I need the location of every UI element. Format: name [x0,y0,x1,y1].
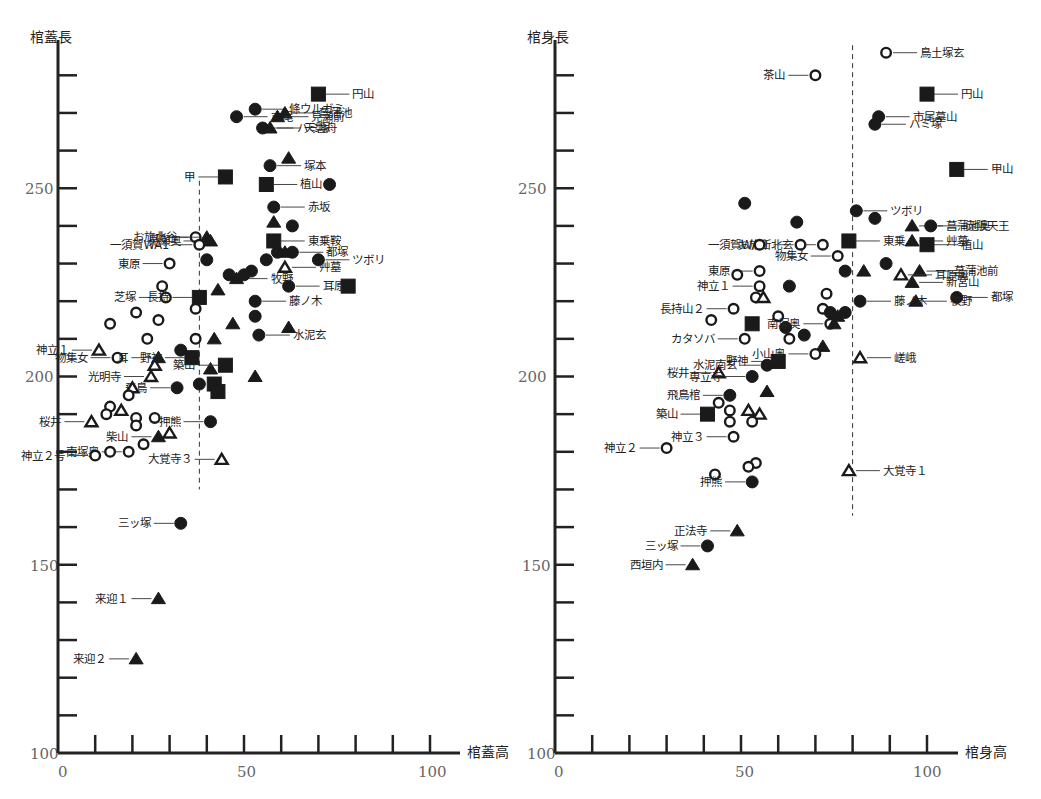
open-circle-marker [105,447,115,457]
left-y-tick-150: 150 [30,557,59,575]
filled-triangle-marker [760,385,774,397]
data-point: 神立２ [604,441,672,455]
open-circle-marker [729,304,739,314]
data-point [286,220,298,232]
data-point [115,405,127,415]
point-label: ツボリ [352,253,385,267]
left-y-tick-200: 200 [25,368,54,386]
point-label: 神立３ [671,430,704,444]
data-point: 東乗 [842,234,906,248]
point-label: 植山 [961,238,983,252]
point-label: 艸墓 [319,260,342,274]
data-point [739,197,751,209]
filled-circle-marker [854,295,866,307]
data-point [755,240,765,250]
point-label: 西垣内 [630,558,663,572]
filled-circle-marker [264,160,276,172]
filled-circle-marker [324,178,336,190]
data-point [191,304,201,314]
point-label: 甲 [184,170,195,184]
open-circle-marker [131,421,141,431]
open-circle-marker [706,315,716,325]
open-circle-marker [755,266,765,276]
open-triangle-marker [93,345,105,355]
filled-circle-marker [724,389,736,401]
filled-circle-marker [850,205,862,217]
filled-circle-marker [283,280,295,292]
data-point: 大覚寺３ [148,452,228,466]
data-point: 三ッ塚 [645,539,714,553]
data-point: 押熊 [159,415,217,429]
filled-square-marker [192,290,206,304]
right-x-axis-label: 棺身高 [965,744,1007,760]
point-label: 物集女 [775,249,808,263]
point-label: 柴山 [106,430,128,444]
data-point: 甲山 [950,162,1013,176]
filled-circle-marker [249,103,261,115]
filled-circle-marker [260,254,272,266]
point-label: 光明寺 [88,370,121,384]
open-triangle-marker [164,427,176,437]
point-label: 甲山 [991,162,1013,176]
point-label: 都塚 [326,245,349,259]
point-label: 芝塚 [114,290,137,304]
open-circle-marker [811,349,821,359]
open-circle-marker [195,240,205,250]
data-point [744,462,754,472]
point-label: 正法寺 [674,524,707,538]
filled-circle-marker [746,476,758,488]
filled-square-marker [259,177,273,191]
data-point: 艸墓 [905,234,969,248]
data-point [791,216,803,228]
point-label: 塚本 [304,159,327,173]
filled-circle-marker [268,201,280,213]
point-label: 藤ノ木 [894,294,928,308]
open-circle-marker [142,334,152,344]
filled-circle-marker [869,118,881,130]
filled-triangle-marker [913,265,927,277]
right-points: 鳥土塚玄茶山円山市尾墓山ハミ塚甲山ツボリ東乗菖蒲池奥赤阪天王お旅所北玄一須賀WA… [604,46,1014,572]
data-point [124,391,134,401]
data-point: 柴山 [106,430,165,444]
data-point: 物集女 [775,249,843,263]
data-point [747,417,757,427]
filled-triangle-marker [730,524,744,536]
data-point: 桜井 [39,415,97,429]
data-point: 神立１ [697,279,765,293]
point-label: 来迎２ [73,652,106,666]
filled-triangle-marker [151,592,165,604]
data-point [211,385,225,399]
filled-triangle-marker [204,362,218,374]
filled-circle-marker [839,306,851,318]
data-point: カタソバ [671,332,750,346]
left-y-tick-100: 100 [30,745,59,763]
data-point [798,329,810,341]
open-circle-marker [90,451,100,461]
filled-triangle-marker [905,219,919,231]
filled-circle-marker [783,280,795,292]
open-triangle-marker [895,269,907,279]
scatter-figure: 棺蓋長 棺蓋高 250 200 150 100 0 50 100 円山條ウルガミ… [0,0,1041,799]
data-point [725,406,735,416]
data-point: 塚本 [264,159,327,173]
data-point: 藤ノ木 [249,294,323,308]
filled-circle-marker [761,359,773,371]
filled-square-marker [218,358,232,372]
point-label: 水泥玄 [293,328,326,342]
right-y-tick-250: 250 [518,180,547,198]
data-point [105,447,115,457]
data-point [211,283,225,295]
open-triangle-marker [742,405,754,415]
data-point [839,265,851,277]
left-scatter-chart: 棺蓋長 棺蓋高 250 200 150 100 0 50 100 円山條ウルガミ… [21,29,509,781]
data-point [226,317,240,329]
point-label: 鳥土塚玄 [920,46,964,60]
left-axes [58,40,460,753]
filled-square-marker [745,317,759,331]
data-point [131,421,141,431]
filled-triangle-marker [211,283,225,295]
right-x-tick-50: 50 [735,763,754,781]
filled-triangle-marker [207,332,221,344]
data-point [131,308,141,318]
filled-triangle-marker [857,265,871,277]
